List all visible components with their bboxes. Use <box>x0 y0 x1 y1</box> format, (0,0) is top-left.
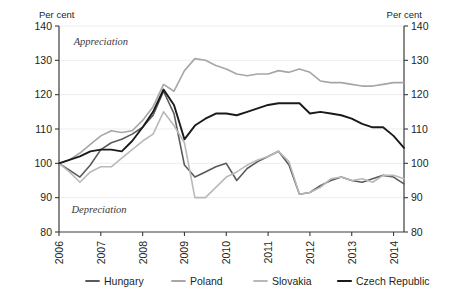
series-line-slovakia <box>59 112 404 198</box>
y-tick-label-right: 110 <box>411 123 428 135</box>
x-tick-label: 2007 <box>95 241 107 265</box>
legend-label-poland: Poland <box>190 275 223 287</box>
series-line-czech-republic <box>59 90 404 164</box>
legend-label-czech-republic: Czech Republic <box>356 275 430 287</box>
y-axis-unit-label-right: Per cent <box>387 9 423 20</box>
y-tick-label-right: 130 <box>411 54 429 66</box>
y-tick-label-left: 130 <box>34 54 52 66</box>
y-tick-label-left: 140 <box>34 20 52 32</box>
x-tick-label: 2013 <box>346 241 358 265</box>
legend-item-hungary[interactable]: Hungary <box>86 275 144 287</box>
y-tick-label-left: 90 <box>40 191 52 203</box>
legend-item-slovakia[interactable]: Slovakia <box>254 275 312 287</box>
legend-item-czech-republic[interactable]: Czech Republic <box>338 275 430 287</box>
x-tick-label: 2011 <box>262 241 274 264</box>
legend-item-poland[interactable]: Poland <box>172 275 223 287</box>
y-tick-label-right: 90 <box>411 191 423 203</box>
y-tick-label-right: 100 <box>411 157 429 169</box>
x-tick-label: 2010 <box>220 241 232 265</box>
y-tick-label-right: 80 <box>411 226 423 238</box>
series-line-hungary <box>59 91 404 194</box>
x-tick-label: 2008 <box>137 241 149 265</box>
x-tick-label: 2012 <box>304 241 316 265</box>
appreciation-note: Appreciation <box>73 36 128 47</box>
x-tick-label: 2014 <box>388 241 400 265</box>
chart-canvas: 80809090100100110110120120130130140140Pe… <box>0 0 459 300</box>
depreciation-note: Depreciation <box>71 204 127 215</box>
y-tick-label-left: 120 <box>34 88 52 100</box>
x-tick-label: 2006 <box>53 241 65 265</box>
x-tick-label: 2009 <box>178 241 190 265</box>
y-axis-unit-label-left: Per cent <box>39 9 75 20</box>
y-tick-label-right: 140 <box>411 20 429 32</box>
y-tick-label-left: 110 <box>35 123 52 135</box>
series-line-poland <box>59 59 404 164</box>
legend-label-slovakia: Slovakia <box>272 275 312 287</box>
exchange-rate-line-chart: 80809090100100110110120120130130140140Pe… <box>0 0 459 300</box>
y-tick-label-left: 100 <box>34 157 52 169</box>
y-tick-label-left: 80 <box>40 226 52 238</box>
y-tick-label-right: 120 <box>411 88 429 100</box>
legend-label-hungary: Hungary <box>104 275 144 287</box>
